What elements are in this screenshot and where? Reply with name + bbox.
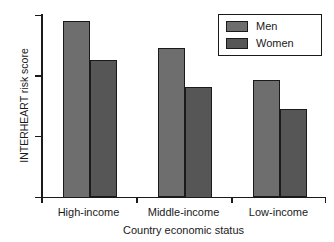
x-tick-label-middle-income: Middle-income [136, 206, 231, 218]
x-tick-1 [136, 197, 138, 203]
y-tick-10 [35, 75, 41, 77]
legend-item-men: Men [226, 21, 277, 32]
y-axis-title: INTERHEART risk score [19, 26, 30, 186]
legend-swatch-women [226, 38, 248, 49]
y-tick-15 [35, 15, 41, 17]
bar-women-high-income [90, 60, 117, 198]
bar-women-middle-income [185, 87, 212, 198]
legend: Men Women [218, 14, 322, 56]
bar-women-low-income [280, 109, 307, 197]
x-tick-right [325, 197, 327, 203]
x-tick-2 [231, 197, 233, 203]
bar-men-middle-income [158, 48, 185, 198]
y-axis-line [41, 14, 43, 198]
x-tick-label-high-income: High-income [41, 206, 136, 218]
x-axis-title: Country economic status [41, 224, 326, 236]
legend-label-men: Men [256, 21, 277, 32]
legend-swatch-men [226, 21, 248, 32]
bar-chart: INTERHEART risk score 15 10 5 0 High-inc… [0, 0, 334, 242]
legend-label-women: Women [256, 38, 294, 49]
x-tick-label-low-income: Low-income [231, 206, 326, 218]
x-tick-left [41, 197, 43, 203]
y-tick-5 [35, 136, 41, 138]
bar-men-high-income [63, 21, 90, 198]
bar-men-low-income [253, 80, 280, 197]
legend-item-women: Women [226, 38, 294, 49]
